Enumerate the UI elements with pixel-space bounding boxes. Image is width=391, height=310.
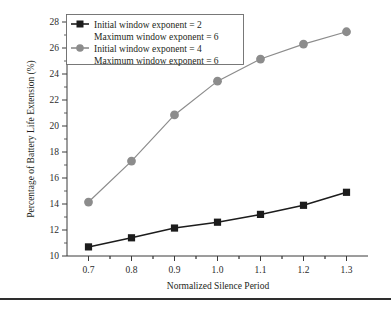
y-tick-label: 10 xyxy=(50,251,60,261)
x-tick-label: 1.1 xyxy=(255,265,267,275)
data-point-marker xyxy=(127,157,136,166)
y-tick-label: 22 xyxy=(50,95,60,105)
data-point-marker xyxy=(300,202,307,209)
data-point-marker xyxy=(170,111,179,120)
data-point-marker xyxy=(257,211,264,218)
y-tick-label: 18 xyxy=(50,147,60,157)
legend-label-series2-line2: Maximum window exponent = 6 xyxy=(94,56,219,66)
y-tick-label: 26 xyxy=(50,43,60,53)
x-tick-label: 1.3 xyxy=(341,265,353,275)
legend-label-series1-line1: Initial window exponent = 2 xyxy=(94,20,202,30)
data-point-marker xyxy=(213,77,222,86)
data-point-marker xyxy=(85,243,92,250)
legend-marker-circle-icon xyxy=(76,44,84,52)
chart-figure: 10121416182022242628 0.70.80.91.01.11.21… xyxy=(0,0,391,310)
data-point-marker xyxy=(84,198,93,207)
x-tick-label: 0.8 xyxy=(126,265,138,275)
x-axis-title: Normalized Silence Period xyxy=(167,281,270,291)
data-point-marker xyxy=(299,40,308,49)
legend-label-series1-line2: Maximum window exponent = 6 xyxy=(94,32,219,42)
legend-marker-square-icon xyxy=(77,21,84,28)
y-tick-label: 20 xyxy=(50,121,60,131)
chart-legend: Initial window exponent = 2 Maximum wind… xyxy=(67,15,244,66)
data-point-marker xyxy=(343,189,350,196)
line-chart: 10121416182022242628 0.70.80.91.01.11.21… xyxy=(0,0,391,310)
data-point-marker xyxy=(128,234,135,241)
data-point-marker xyxy=(342,27,351,36)
y-tick-label: 12 xyxy=(50,225,60,235)
x-tick-label: 0.9 xyxy=(169,265,181,275)
data-point-marker xyxy=(214,219,221,226)
y-tick-label: 14 xyxy=(50,199,60,209)
y-tick-label: 24 xyxy=(50,69,60,79)
data-point-marker xyxy=(171,224,178,231)
y-tick-label: 28 xyxy=(50,17,60,27)
data-point-marker xyxy=(256,55,265,64)
x-tick-label: 1.0 xyxy=(212,265,224,275)
y-tick-label: 16 xyxy=(50,173,60,183)
x-tick-label: 1.2 xyxy=(298,265,310,275)
x-tick-label: 0.7 xyxy=(83,265,95,275)
bottom-divider xyxy=(0,298,391,300)
y-axis-title: Percentage of Battery Life Extension (%) xyxy=(26,60,37,217)
legend-label-series2-line1: Initial window exponent = 4 xyxy=(94,44,202,54)
